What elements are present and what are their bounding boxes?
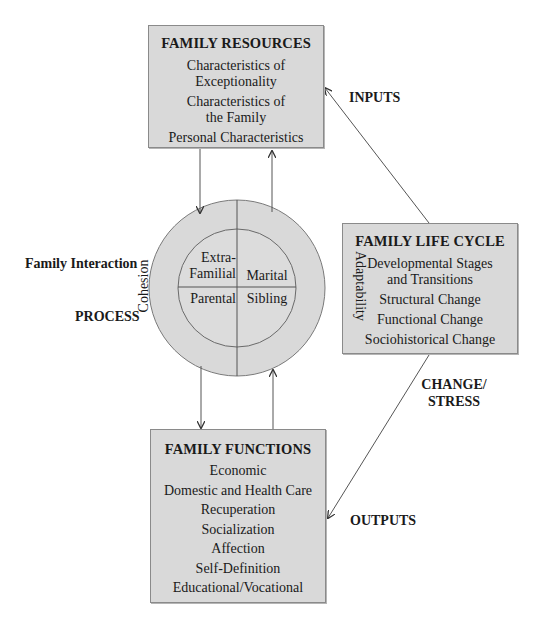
function-item: Self-Definition <box>151 561 325 577</box>
life-cycle-item: Structural Change <box>343 292 517 308</box>
outputs-label: OUTPUTS <box>350 513 416 529</box>
family-interaction-label: Family Interaction <box>25 256 137 272</box>
family-life-cycle-title: FAMILY LIFE CYCLE <box>343 233 517 250</box>
life-cycle-item: Developmental Stages and Transitions <box>343 256 517 288</box>
family-functions-box: FAMILY FUNCTIONS Economic Domestic and H… <box>150 429 326 603</box>
quadrant-extra-familial: Extra- Familial <box>178 250 236 282</box>
quadrant-parental: Parental <box>184 291 236 307</box>
adaptability-label: Adaptability <box>352 236 368 336</box>
arrow-lifecycle-to-resources <box>325 88 429 223</box>
family-resources-title: FAMILY RESOURCES <box>149 35 323 52</box>
family-life-cycle-box: FAMILY LIFE CYCLE Developmental Stages a… <box>342 223 518 354</box>
arrow-lifecycle-to-functions <box>328 355 429 518</box>
family-functions-title: FAMILY FUNCTIONS <box>151 441 325 458</box>
resource-item: Characteristics of Exceptionality <box>149 58 323 90</box>
quadrant-marital: Marital <box>239 268 295 284</box>
life-cycle-item: Functional Change <box>343 312 517 328</box>
resource-item: Personal Characteristics <box>149 130 323 146</box>
function-item: Educational/Vocational <box>151 580 325 596</box>
function-item: Recuperation <box>151 502 325 518</box>
function-item: Domestic and Health Care <box>151 483 325 499</box>
function-item: Socialization <box>151 522 325 538</box>
change-stress-label: CHANGE/ STRESS <box>421 376 487 410</box>
process-label: PROCESS <box>75 309 140 325</box>
resource-item: Characteristics of the Family <box>149 94 323 126</box>
family-resources-box: FAMILY RESOURCES Characteristics of Exce… <box>148 25 324 148</box>
function-item: Economic <box>151 463 325 479</box>
life-cycle-item: Sociohistorical Change <box>343 332 517 348</box>
function-item: Affection <box>151 541 325 557</box>
inputs-label: INPUTS <box>349 90 400 106</box>
quadrant-sibling: Sibling <box>239 291 295 307</box>
family-interaction-circle <box>149 200 325 376</box>
